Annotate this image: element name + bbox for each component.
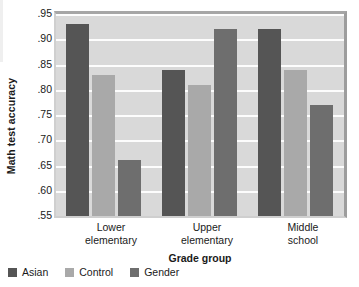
x-axis-tick-label-line: school bbox=[262, 234, 344, 247]
legend-item-asian[interactable]: Asian bbox=[8, 267, 48, 278]
legend-item-gender[interactable]: Gender bbox=[130, 267, 179, 278]
bar-gender-upper-elementary[interactable] bbox=[214, 29, 237, 216]
plot-area bbox=[56, 14, 344, 216]
y-axis-tick-label: .70 bbox=[22, 134, 52, 144]
x-axis-tick-label-line: Middle bbox=[262, 221, 344, 234]
legend-label: Control bbox=[79, 267, 113, 278]
y-axis-tick-label: .75 bbox=[22, 109, 52, 119]
legend-swatch-icon bbox=[65, 268, 74, 277]
y-axis-title: Math test accuracy bbox=[2, 36, 20, 216]
x-axis-tick-label-line: elementary bbox=[70, 234, 152, 247]
bar-asian-upper-elementary[interactable] bbox=[162, 70, 185, 216]
legend-swatch-icon bbox=[8, 268, 17, 277]
legend-label: Gender bbox=[144, 267, 179, 278]
bar-group bbox=[248, 14, 344, 216]
x-axis-tick-label: Middleschool bbox=[248, 221, 344, 255]
legend-swatch-icon bbox=[130, 268, 139, 277]
bars-layer bbox=[56, 14, 344, 216]
bar-group bbox=[56, 14, 152, 216]
bar-gender-lower-elementary[interactable] bbox=[118, 160, 141, 216]
x-axis-tick-label: Lowerelementary bbox=[56, 221, 152, 255]
x-axis-tick-label: Upperelementary bbox=[152, 221, 248, 255]
legend-label: Asian bbox=[22, 267, 48, 278]
y-axis-tick-label: .90 bbox=[22, 33, 52, 43]
y-axis-tick-label: .60 bbox=[22, 185, 52, 195]
legend-item-control[interactable]: Control bbox=[65, 267, 113, 278]
y-axis-tick-labels: .95.90.85.80.75.70.65.60.55 bbox=[22, 13, 52, 215]
y-axis-tick-label: .65 bbox=[22, 160, 52, 170]
x-axis-tick-label-line: Lower bbox=[70, 221, 152, 234]
y-axis-title-text: Math test accuracy bbox=[5, 78, 17, 174]
y-axis-tick-label: .85 bbox=[22, 59, 52, 69]
bar-gender-middle-school[interactable] bbox=[310, 105, 333, 216]
bar-control-lower-elementary[interactable] bbox=[92, 75, 115, 216]
x-axis-title: Grade group bbox=[56, 252, 344, 264]
x-axis-tick-label-line: Upper bbox=[166, 221, 248, 234]
y-axis-tick-label: .55 bbox=[22, 210, 52, 220]
bar-asian-middle-school[interactable] bbox=[258, 29, 281, 216]
x-axis-tick-labels: LowerelementaryUpperelementaryMiddlescho… bbox=[56, 221, 344, 255]
bar-control-upper-elementary[interactable] bbox=[188, 85, 211, 216]
y-axis-tick-label: .80 bbox=[22, 84, 52, 94]
x-axis-tick-label-line: elementary bbox=[166, 234, 248, 247]
bar-asian-lower-elementary[interactable] bbox=[66, 24, 89, 216]
y-axis-tick-label: .95 bbox=[22, 8, 52, 18]
bar-group bbox=[152, 14, 248, 216]
chart-legend: AsianControlGender bbox=[8, 267, 196, 278]
bar-control-middle-school[interactable] bbox=[284, 70, 307, 216]
